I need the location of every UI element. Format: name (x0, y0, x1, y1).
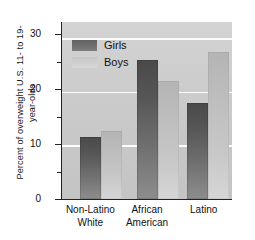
category-label-line-2: American (119, 217, 176, 230)
girls-swatch-icon (72, 40, 97, 51)
y-tick-label-0: 0 (11, 194, 41, 204)
bar-chart: Percent of overweight U.S. 11- to 19- ye… (0, 0, 255, 240)
y-tick-label-10: 10 (11, 139, 41, 149)
category-label-line-1: African (131, 204, 162, 215)
bar-boys-latino (208, 52, 229, 200)
category-label-line-2: White (62, 217, 119, 230)
bar-boys-non-latino-white (101, 131, 122, 199)
legend-item-girls: Girls (72, 40, 128, 51)
y-tick-label-20: 20 (11, 84, 41, 94)
x-axis-line (61, 199, 232, 200)
category-label-line-1: Non-Latino (66, 204, 115, 215)
category-label-african-american: African American (119, 202, 176, 236)
category-label-non-latino-white: Non-Latino White (62, 202, 119, 236)
bar-girls-non-latino-white (80, 137, 101, 199)
legend: Girls Boys (72, 40, 128, 68)
bar-girls-african-american (137, 60, 158, 200)
bar-boys-african-american (158, 81, 179, 199)
y-tick-label-30: 30 (11, 29, 41, 39)
legend-label-boys: Boys (104, 57, 128, 68)
x-axis-category-labels: Non-Latino White African American Latino (62, 202, 232, 236)
category-label-latino: Latino (175, 202, 232, 236)
legend-label-girls: Girls (104, 40, 127, 51)
legend-item-boys: Boys (72, 57, 128, 68)
bar-girls-latino (187, 103, 208, 200)
boys-swatch-icon (72, 57, 97, 68)
category-label-line-1: Latino (190, 204, 217, 215)
